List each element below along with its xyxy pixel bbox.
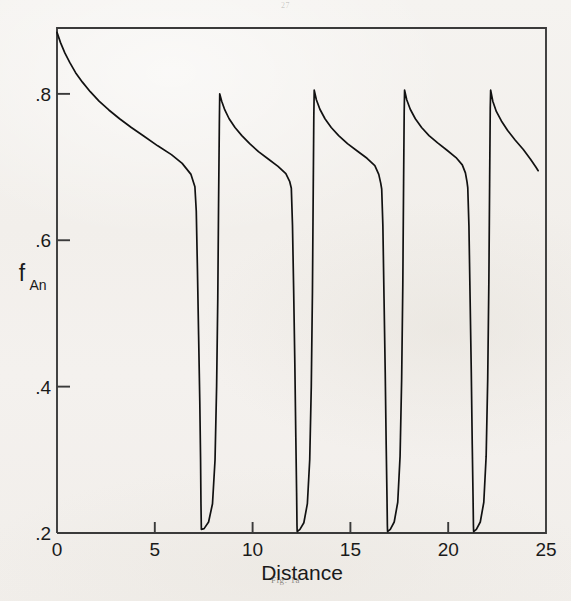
x-axis-tick-labels: 0510152025 — [52, 539, 557, 560]
x-axis-tick-label: 25 — [535, 539, 556, 560]
figure-caption: Fig. 1a — [0, 575, 571, 585]
data-series-line — [57, 32, 538, 531]
y-axis-tick-label: .8 — [35, 84, 51, 105]
y-axis-label-base: f — [19, 260, 26, 286]
y-axis-label-subscript: An — [29, 277, 46, 293]
y-axis-tick-labels: .2.4.6.8 — [35, 84, 51, 544]
figure-plot: .2.4.6.8 0510152025 f An Distance — [0, 0, 571, 601]
y-axis-tick-label: .4 — [35, 377, 51, 398]
y-axis-label: f An — [19, 260, 47, 293]
x-axis-tick-label: 15 — [340, 539, 361, 560]
x-axis-tick-label: 20 — [438, 539, 459, 560]
x-axis-tick-label: 10 — [242, 539, 263, 560]
y-axis-tick-label: .6 — [35, 230, 51, 251]
x-axis-tick-label: 5 — [150, 539, 161, 560]
chart-svg: .2.4.6.8 0510152025 f An Distance — [0, 0, 571, 601]
y-axis-tick-label: .2 — [35, 523, 51, 544]
y-axis-ticks — [57, 94, 70, 533]
x-axis-tick-label: 0 — [52, 539, 63, 560]
